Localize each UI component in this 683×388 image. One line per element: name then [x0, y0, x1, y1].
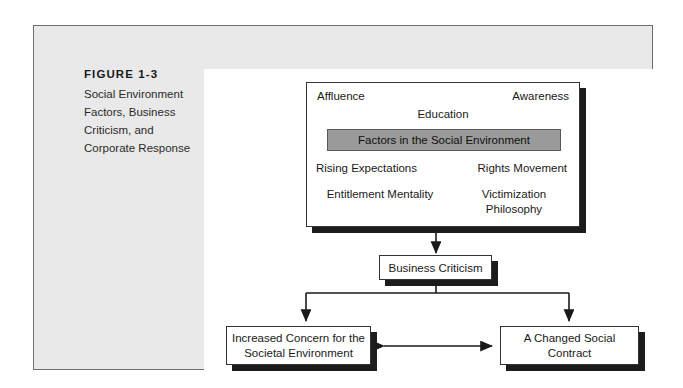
- factors-in-social-environment-bar: Factors in the Social Environment: [327, 129, 561, 151]
- figure-title: Social Environment Factors, Business Cri…: [84, 85, 194, 157]
- label-awareness: Awareness: [512, 90, 569, 102]
- diagram-panel: Affluence Awareness Education Factors in…: [204, 69, 667, 381]
- label-rising-expectations: Rising Expectations: [316, 162, 417, 174]
- label-affluence: Affluence: [317, 90, 365, 102]
- figure-frame: FIGURE 1-3 Social Environment Factors, B…: [33, 25, 653, 370]
- label-rights-movement: Rights Movement: [478, 162, 567, 174]
- figure-caption: FIGURE 1-3 Social Environment Factors, B…: [84, 68, 194, 157]
- label-education: Education: [307, 108, 579, 120]
- label-victimization-philosophy: Victimization Philosophy: [459, 187, 569, 217]
- business-criticism-box: Business Criticism: [379, 255, 492, 280]
- increased-concern-box: Increased Concern for the Societal Envir…: [226, 326, 371, 365]
- changed-social-contract-box: A Changed Social Contract: [500, 326, 639, 365]
- social-environment-box: Affluence Awareness Education Factors in…: [306, 82, 580, 227]
- label-entitlement-mentality: Entitlement Mentality: [325, 187, 435, 202]
- figure-number: FIGURE 1-3: [84, 68, 194, 80]
